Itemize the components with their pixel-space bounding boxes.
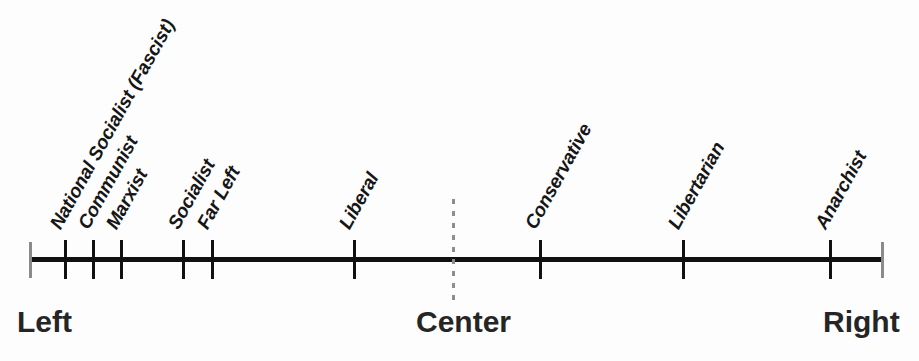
tick-mark	[64, 240, 67, 279]
category-label: Liberal	[335, 170, 381, 232]
category-label: Anarchist	[811, 148, 869, 232]
category-label: Conservative	[521, 121, 594, 232]
center-divider-dashed-line	[452, 199, 455, 306]
axis-end-cap-right	[881, 242, 884, 278]
category-label: National Socialist (Fascist)	[46, 16, 177, 232]
pole-label-right: Right	[823, 307, 900, 337]
category-label: Libertarian	[664, 139, 727, 232]
pole-label-left: Left	[17, 307, 72, 337]
tick-mark	[829, 240, 832, 279]
political-spectrum-diagram: National Socialist (Fascist)CommunistMar…	[0, 0, 919, 361]
tick-mark	[539, 240, 542, 279]
tick-mark	[682, 240, 685, 279]
tick-mark	[92, 240, 95, 279]
tick-mark	[353, 240, 356, 279]
spectrum-axis-line	[30, 257, 883, 262]
tick-mark	[182, 240, 185, 279]
pole-label-center: Center	[416, 307, 511, 337]
tick-mark	[211, 240, 214, 279]
tick-mark	[120, 240, 123, 279]
axis-end-cap-left	[29, 242, 32, 278]
